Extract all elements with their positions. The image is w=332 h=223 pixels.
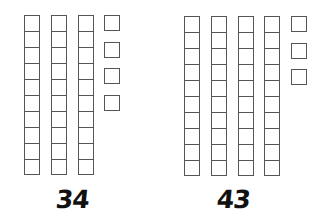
unit-cube (104, 68, 120, 84)
number-label: 43 (215, 185, 251, 214)
unit-cube (291, 16, 307, 32)
unit-cube (104, 15, 120, 31)
unit-cube (291, 69, 307, 85)
ten-rod (238, 16, 254, 176)
unit-cube (104, 42, 120, 58)
unit-cube (104, 95, 120, 111)
ten-rod (264, 16, 280, 176)
ten-rod (78, 15, 94, 175)
ten-rod (24, 15, 40, 175)
ten-rod (211, 16, 227, 176)
unit-cube (291, 43, 307, 59)
ten-rod (51, 15, 67, 175)
number-label: 34 (54, 185, 90, 214)
ten-rod (184, 16, 200, 176)
